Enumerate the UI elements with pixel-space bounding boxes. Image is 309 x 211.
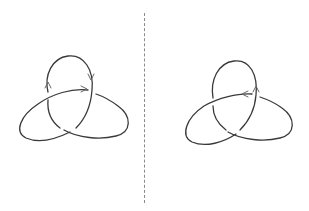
- arrow-up-icon: [45, 82, 51, 88]
- right-knot-right-lobe: [228, 97, 292, 140]
- left-knot-top-loop-left-lower: [48, 100, 60, 128]
- right-knot-left-lobe: [186, 94, 252, 145]
- left-knot-top-loop: [47, 56, 92, 128]
- right-knot-top-loop-left-lower: [213, 106, 226, 130]
- left-knot-left-lobe: [20, 90, 88, 141]
- right-trefoil-diagram: [145, 0, 309, 211]
- left-knot-panel: [0, 0, 144, 211]
- right-knot-panel: [145, 0, 309, 211]
- left-knot-right-lobe: [64, 94, 128, 138]
- left-trefoil-diagram: [0, 0, 144, 211]
